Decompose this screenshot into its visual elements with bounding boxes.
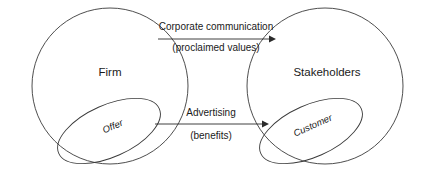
subnode-customer-label: Customer [292, 111, 335, 138]
edge-corporate-communication-label-primary: Corporate communication [159, 21, 274, 32]
edge-advertising-arrowhead-icon [262, 121, 269, 128]
diagram-svg: Firm Stakeholders Offer Customer Corpora… [0, 0, 422, 175]
edge-advertising-label-secondary: (benefits) [190, 130, 232, 141]
edge-advertising-label-primary: Advertising [186, 107, 235, 118]
node-firm-label: Firm [99, 66, 122, 78]
edge-corporate-communication-arrowhead-icon [269, 36, 276, 43]
subnode-offer-label: Offer [101, 116, 126, 135]
diagram-canvas: Firm Stakeholders Offer Customer Corpora… [0, 0, 422, 175]
node-stakeholders-label: Stakeholders [293, 66, 360, 78]
edge-corporate-communication-label-secondary: (proclaimed values) [172, 42, 259, 53]
